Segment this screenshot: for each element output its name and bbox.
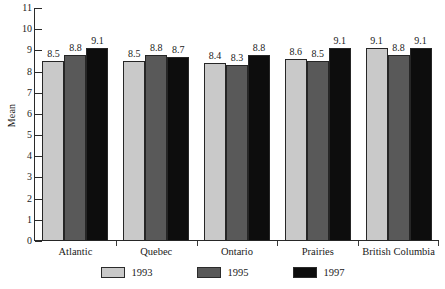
bar-wrap: 8.8 [145, 8, 167, 241]
bar[interactable] [204, 63, 226, 241]
x-group-tick [358, 241, 359, 246]
bar-wrap: 8.5 [307, 8, 329, 241]
legend-label: 1997 [324, 267, 345, 278]
bar[interactable] [42, 61, 64, 241]
y-tick-label: 8 [10, 65, 32, 79]
x-group-tick [116, 241, 117, 246]
bar[interactable] [285, 59, 307, 241]
y-tick-label: 7 [10, 86, 32, 100]
bar-value-label: 8.5 [312, 48, 325, 59]
bar-wrap: 9.1 [410, 8, 432, 241]
bar[interactable] [366, 48, 388, 241]
bar-value-label: 8.5 [128, 48, 141, 59]
y-tick-label: 11 [10, 1, 32, 15]
bar-value-label: 9.1 [334, 35, 347, 46]
y-tick-label: 4 [10, 149, 32, 163]
bar[interactable] [388, 55, 410, 241]
y-tick-label: 0 [10, 234, 32, 248]
bar-value-label: 9.1 [414, 35, 427, 46]
bar-group: 8.58.89.1 [42, 8, 108, 241]
bar[interactable] [64, 55, 86, 241]
bar-wrap: 8.6 [285, 8, 307, 241]
bar-wrap: 9.1 [366, 8, 388, 241]
bar-wrap: 8.5 [123, 8, 145, 241]
y-tick-label: 2 [10, 192, 32, 206]
y-tick-label: 3 [10, 170, 32, 184]
bar[interactable] [145, 55, 167, 241]
bar[interactable] [167, 57, 189, 241]
legend-item[interactable]: 1993 [101, 267, 153, 278]
bar-value-label: 9.1 [91, 35, 104, 46]
chart-legend: 199319951997 [0, 267, 445, 278]
bar-wrap: 8.4 [204, 8, 226, 241]
grouped-bar-chart: Mean 01234567891011 AtlanticQuebecOntari… [0, 0, 445, 289]
bar-wrap: 8.8 [388, 8, 410, 241]
y-tick-label: 10 [10, 22, 32, 36]
bar-value-label: 8.8 [69, 42, 82, 53]
x-category-label: Quebec [140, 246, 172, 257]
x-group-tick [277, 241, 278, 246]
bar-wrap: 9.1 [329, 8, 351, 241]
bar[interactable] [226, 65, 248, 241]
x-group-tick [197, 241, 198, 246]
x-category-label: Prairies [302, 246, 334, 257]
y-tick-label: 6 [10, 107, 32, 121]
y-tick-mark [35, 241, 42, 242]
bar[interactable] [410, 48, 432, 241]
legend-item[interactable]: 1997 [293, 267, 345, 278]
bar-value-label: 8.3 [231, 52, 244, 63]
bar-value-label: 8.6 [290, 46, 303, 57]
bar-value-label: 8.8 [253, 42, 266, 53]
bar-value-label: 8.4 [209, 50, 222, 61]
x-category-label: Atlantic [58, 246, 92, 257]
y-tick-label: 5 [10, 128, 32, 142]
bar-value-label: 8.8 [392, 42, 405, 53]
legend-label: 1995 [228, 267, 249, 278]
bar-wrap: 8.3 [226, 8, 248, 241]
bar-group: 8.68.59.1 [285, 8, 351, 241]
x-category-label: Ontario [221, 246, 253, 257]
legend-swatch [197, 267, 221, 278]
y-tick-label: 1 [10, 213, 32, 227]
legend-swatch [101, 267, 125, 278]
bar-wrap: 8.8 [248, 8, 270, 241]
x-axis-end-tick [438, 241, 439, 246]
bar-wrap: 8.7 [167, 8, 189, 241]
legend-swatch [293, 267, 317, 278]
bar-group: 8.48.38.8 [204, 8, 270, 241]
bar-wrap: 8.8 [64, 8, 86, 241]
bar-wrap: 9.1 [86, 8, 108, 241]
legend-label: 1993 [132, 267, 153, 278]
bar-group: 8.58.88.7 [123, 8, 189, 241]
bar[interactable] [248, 55, 270, 241]
bar[interactable] [307, 61, 329, 241]
bar-wrap: 8.5 [42, 8, 64, 241]
bar-value-label: 8.7 [172, 44, 185, 55]
bar-value-label: 8.8 [150, 42, 163, 53]
legend-item[interactable]: 1995 [197, 267, 249, 278]
y-tick-label: 9 [10, 43, 32, 57]
bar[interactable] [86, 48, 108, 241]
bar[interactable] [123, 61, 145, 241]
x-category-label: British Columbia [362, 246, 435, 257]
bar-group: 9.18.89.1 [366, 8, 432, 241]
bar-value-label: 8.5 [47, 48, 60, 59]
bar[interactable] [329, 48, 351, 241]
bar-value-label: 9.1 [370, 35, 383, 46]
